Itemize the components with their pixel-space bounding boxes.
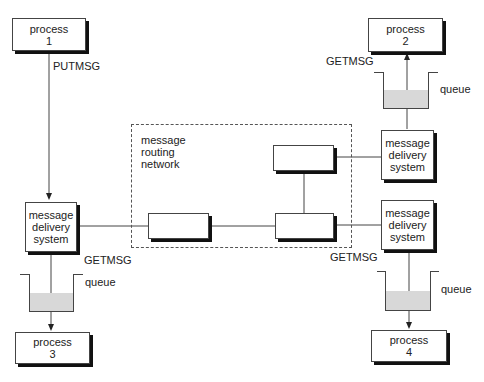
routing-line-3: network bbox=[141, 158, 186, 170]
process-1-number: 1 bbox=[46, 35, 52, 47]
queue-bottom-right bbox=[377, 271, 439, 311]
process-3-box: process 3 bbox=[15, 332, 90, 364]
mds-top-right-line-2: delivery bbox=[389, 149, 427, 161]
delivery-system-bottom-right: message delivery system bbox=[381, 200, 434, 250]
mds-bottom-right-line-2: delivery bbox=[389, 219, 427, 231]
mds-left-line-3: system bbox=[34, 233, 69, 245]
mds-left-line-2: delivery bbox=[32, 221, 70, 233]
process-1-box: process 1 bbox=[12, 18, 86, 51]
queue-left-fill bbox=[30, 293, 73, 311]
process-3-number: 3 bbox=[49, 348, 55, 360]
process-3-label: process bbox=[33, 336, 72, 348]
delivery-system-top-right: message delivery system bbox=[381, 130, 434, 180]
queue-top-right-label: queue bbox=[440, 83, 471, 95]
routing-network-label: message routing network bbox=[141, 134, 186, 170]
mds-bottom-right-line-3: system bbox=[390, 231, 425, 243]
mds-bottom-right-line-1: message bbox=[385, 207, 430, 219]
process-2-label: process bbox=[386, 23, 425, 35]
process-4-label: process bbox=[390, 334, 429, 346]
process-1-label: process bbox=[30, 23, 69, 35]
queue-top-right-fill bbox=[384, 90, 428, 108]
mds-top-right-line-3: system bbox=[390, 161, 425, 173]
queue-left-label: queue bbox=[85, 276, 116, 288]
putmsg-label: PUTMSG bbox=[53, 60, 100, 72]
process-2-number: 2 bbox=[402, 35, 408, 47]
getmsg-top-right-label: GETMSG bbox=[326, 55, 374, 67]
queue-bottom-right-fill bbox=[386, 291, 430, 310]
getmsg-bottom-right-label: GETMSG bbox=[330, 251, 378, 263]
process-2-box: process 2 bbox=[368, 18, 443, 52]
routing-node-top bbox=[273, 145, 334, 171]
queue-left bbox=[20, 274, 83, 312]
process-4-box: process 4 bbox=[371, 330, 447, 362]
routing-line-1: message bbox=[141, 134, 186, 146]
mds-left-line-1: message bbox=[29, 209, 74, 221]
getmsg-left-label: GETMSG bbox=[84, 254, 132, 266]
routing-line-2: routing bbox=[141, 146, 186, 158]
process-4-number: 4 bbox=[406, 346, 412, 358]
mds-top-right-line-1: message bbox=[385, 137, 430, 149]
queue-top-right bbox=[374, 72, 438, 109]
routing-node-left bbox=[148, 213, 209, 239]
delivery-system-left: message delivery system bbox=[25, 202, 77, 252]
queue-bottom-right-label: queue bbox=[441, 283, 472, 295]
routing-node-right bbox=[275, 213, 334, 239]
